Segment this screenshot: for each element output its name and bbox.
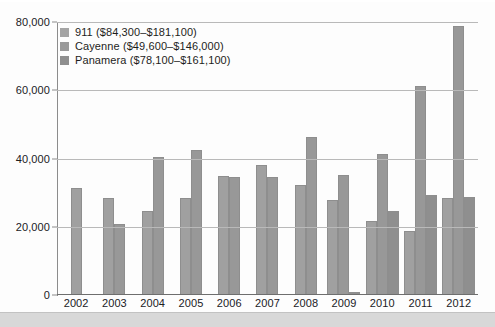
legend-label-cayenne: Cayenne ($49,600–$146,000) [75,41,224,52]
x-axis-line [57,294,478,295]
x-tick-label-2009: 2009 [325,297,363,309]
bar-911-2010 [366,221,377,295]
bar-911-2011 [404,231,415,295]
x-tick-label-2012: 2012 [440,297,478,309]
bar-911-2002 [71,188,82,295]
bar-panamera-2010 [388,211,399,295]
legend-item-panamera: Panamera ($78,100–$161,100) [60,55,231,66]
legend-item-911: 911 ($84,300–$181,100) [60,27,231,38]
bar-panamera-2012 [464,197,475,295]
y-tick-mark-60000 [52,90,57,91]
x-tick-label-2007: 2007 [248,297,286,309]
bar-911-2004 [142,211,153,295]
legend-swatch-icon-cayenne [60,42,69,51]
y-tick-label-60000: 60,000 [16,84,50,96]
bar-cayenne-2008 [306,137,317,295]
y-tick-label-0: 0 [44,289,50,301]
bar-911-2003 [103,198,114,295]
gridline-20000 [57,227,478,228]
bar-chart: 020,00040,00060,00080,000 20022003200420… [0,0,495,327]
y-tick-label-40000: 40,000 [16,153,50,165]
legend-swatch-icon-911 [60,28,69,37]
gridline-60000 [57,90,478,91]
bar-cayenne-2012 [453,26,464,295]
page-bottom-band [0,312,495,327]
y-tick-mark-20000 [52,226,57,227]
legend-item-cayenne: Cayenne ($49,600–$146,000) [60,41,231,52]
y-tick-mark-80000 [52,22,57,23]
gridline-80000 [57,22,478,23]
x-tick-label-2011: 2011 [401,297,439,309]
x-axis-labels: 2002200320042005200620072008200920102011… [57,297,478,309]
bar-911-2007 [256,165,267,295]
page-top-edge [0,0,495,2]
bar-911-2008 [295,185,306,295]
bar-911-2005 [180,198,191,295]
bar-cayenne-2010 [377,154,388,295]
bar-cayenne-2007 [267,177,278,295]
bar-cayenne-2005 [191,150,202,295]
y-tick-label-80000: 80,000 [16,16,50,28]
gridline-40000 [57,159,478,160]
x-tick-label-2002: 2002 [57,297,95,309]
legend-swatch-icon-panamera [60,56,69,65]
bar-cayenne-2011 [415,86,426,295]
bar-cayenne-2003 [114,224,125,295]
x-tick-label-2008: 2008 [287,297,325,309]
legend: 911 ($84,300–$181,100) Cayenne ($49,600–… [60,27,231,66]
legend-label-panamera: Panamera ($78,100–$161,100) [75,55,231,66]
x-tick-label-2003: 2003 [95,297,133,309]
x-tick-label-2004: 2004 [134,297,172,309]
x-tick-label-2010: 2010 [363,297,401,309]
x-tick-label-2005: 2005 [172,297,210,309]
legend-label-911: 911 ($84,300–$181,100) [75,27,197,38]
bar-cayenne-2009 [338,175,349,295]
bar-911-2009 [327,200,338,295]
bar-911-2006 [218,176,229,295]
y-tick-label-20000: 20,000 [16,221,50,233]
bar-cayenne-2006 [229,177,240,295]
bar-panamera-2011 [426,195,437,295]
x-tick-label-2006: 2006 [210,297,248,309]
bar-911-2012 [442,198,453,295]
y-tick-mark-40000 [52,158,57,159]
